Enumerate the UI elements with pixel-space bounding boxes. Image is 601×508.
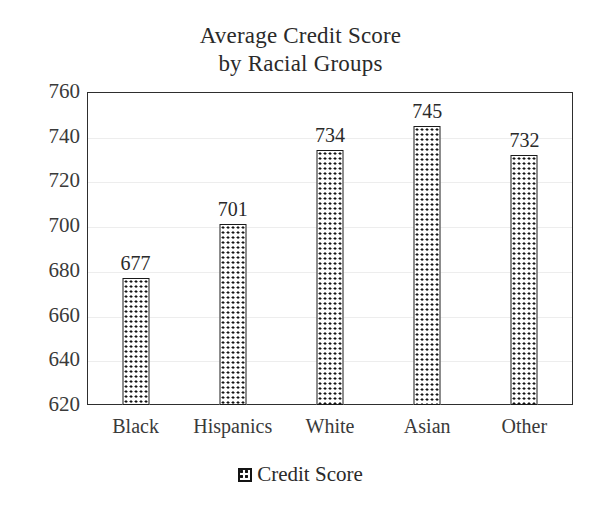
y-axis-tick-label: 760 bbox=[4, 81, 80, 102]
bar-series-credit-score: 677701734745732 bbox=[87, 92, 573, 405]
bar[interactable] bbox=[316, 150, 343, 405]
bar-slot: 734 bbox=[281, 92, 378, 405]
bar[interactable] bbox=[511, 155, 538, 405]
bar[interactable] bbox=[414, 126, 441, 405]
bar-value-label: 677 bbox=[121, 253, 151, 273]
y-axis-tick-label: 720 bbox=[4, 170, 80, 191]
bar[interactable] bbox=[219, 224, 246, 405]
chart-title-line-1: Average Credit Score bbox=[0, 22, 601, 50]
bar-slot: 701 bbox=[184, 92, 281, 405]
legend-label: Credit Score bbox=[257, 462, 363, 486]
bar-slot: 745 bbox=[379, 92, 476, 405]
bar-value-label: 701 bbox=[218, 199, 248, 219]
x-axis-category-label: Hispanics bbox=[184, 414, 281, 438]
y-axis-tick-labels: 760740720700680660640620 bbox=[0, 0, 80, 508]
y-axis-tick-label: 620 bbox=[4, 394, 80, 415]
dotted-pattern-swatch-icon bbox=[238, 468, 252, 482]
bar-value-label: 732 bbox=[509, 130, 539, 150]
chart-title-line-2: by Racial Groups bbox=[0, 50, 601, 78]
bar-slot: 677 bbox=[87, 92, 184, 405]
bar-value-label: 745 bbox=[412, 101, 442, 121]
x-axis-category-labels: BlackHispanicsWhiteAsianOther bbox=[87, 414, 573, 444]
y-axis-tick-label: 660 bbox=[4, 305, 80, 326]
legend-entry-credit-score: Credit Score bbox=[238, 462, 363, 486]
chart-title: Average Credit Score by Racial Groups bbox=[0, 22, 601, 78]
x-axis-category-label: Other bbox=[476, 414, 573, 438]
x-axis-category-label: Black bbox=[87, 414, 184, 438]
y-axis-tick-label: 680 bbox=[4, 260, 80, 281]
y-axis-tick-label: 640 bbox=[4, 349, 80, 370]
y-axis-tick-label: 740 bbox=[4, 126, 80, 147]
chart-legend: Credit Score bbox=[0, 462, 601, 486]
y-axis-tick-label: 700 bbox=[4, 215, 80, 236]
bar-value-label: 734 bbox=[315, 125, 345, 145]
x-axis-category-label: Asian bbox=[379, 414, 476, 438]
x-axis-category-label: White bbox=[281, 414, 378, 438]
bar-slot: 732 bbox=[476, 92, 573, 405]
bar[interactable] bbox=[122, 278, 149, 405]
